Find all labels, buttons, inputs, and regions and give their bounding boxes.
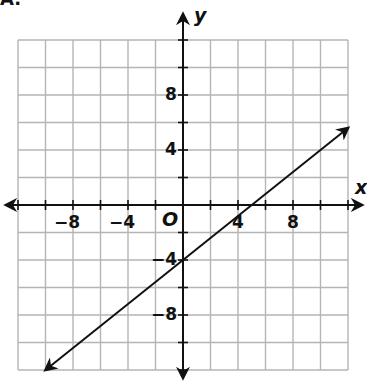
y-tick-label: 8 (165, 86, 177, 103)
x-tick-label: 8 (287, 214, 299, 231)
axes (6, 14, 362, 378)
x-axis-label: x (355, 178, 367, 197)
y-tick-label: −4 (151, 251, 177, 268)
coordinate-plane (0, 0, 367, 382)
x-tick-label: 4 (232, 214, 244, 231)
y-axis-label: y (194, 6, 206, 25)
x-tick-label: −4 (109, 214, 135, 231)
origin-label: O (162, 210, 178, 229)
y-tick-label: −8 (151, 306, 177, 323)
data-line (46, 128, 349, 370)
x-tick-label: −8 (54, 214, 80, 231)
y-tick-label: 4 (165, 141, 177, 158)
